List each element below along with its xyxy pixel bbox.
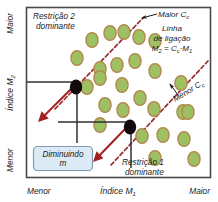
y-axis-low-label: Menor xyxy=(5,147,15,172)
bubble xyxy=(116,78,128,93)
svg-text:Maior Cc: Maior Cc xyxy=(158,10,189,20)
y-axis-title-sub: 2 xyxy=(10,74,16,79)
linha-equation: M2 = Cc·M1 xyxy=(152,44,193,54)
y-axis-title: Índice M2 xyxy=(5,74,16,110)
eq-m1-sub: 1 xyxy=(189,48,192,54)
bubble xyxy=(129,54,141,69)
bubble xyxy=(157,128,169,143)
bubble xyxy=(71,51,83,66)
svg-text:Índice M1: Índice M1 xyxy=(100,186,136,197)
bubble xyxy=(99,98,111,113)
x-axis-high-label: Maior xyxy=(189,186,211,196)
maior-cc-text: Maior C xyxy=(158,10,186,19)
x-axis-low-label: Menor xyxy=(27,186,52,196)
bubble xyxy=(94,71,106,86)
linha-line2: de ligação xyxy=(154,34,191,43)
bubble xyxy=(182,105,194,120)
figure-root: Restrição 2 dominante Restrição 1 domina… xyxy=(0,0,218,202)
bubble xyxy=(133,30,145,45)
y-axis-title-text: Índice M xyxy=(5,78,15,111)
svg-text:Índice M2: Índice M2 xyxy=(5,74,16,110)
x-axis-title-sub: 1 xyxy=(133,191,136,197)
bubble xyxy=(94,118,106,133)
bubble xyxy=(188,152,200,167)
x-axis-title: Índice M1 xyxy=(100,186,136,197)
selected-point-lower[interactable] xyxy=(124,119,136,134)
bubble xyxy=(86,33,98,48)
bubble xyxy=(178,132,190,147)
restricao2-line1: Restrição 2 xyxy=(33,11,75,21)
linha-line1: Linha xyxy=(162,24,182,33)
bubble xyxy=(149,64,161,79)
label-maior-cc: Maior Cc xyxy=(158,10,189,20)
bubble xyxy=(148,102,160,117)
bubble xyxy=(136,129,148,144)
bubble xyxy=(118,25,130,40)
callout-line1: Diminuindo xyxy=(43,150,84,159)
bubble xyxy=(117,103,129,118)
restricao1-line2: dominante xyxy=(125,167,164,177)
restricao1-line1: Restrição 1 xyxy=(122,157,164,167)
bubble xyxy=(81,80,93,95)
selection-chart: Restrição 2 dominante Restrição 1 domina… xyxy=(0,0,218,202)
eq-mid: = C xyxy=(162,44,177,53)
restricao2-line2: dominante xyxy=(36,21,75,31)
maior-cc-sub: c xyxy=(186,14,189,20)
callout-diminuindo-m[interactable]: Diminuindo m xyxy=(34,147,93,171)
callout-line2: m xyxy=(60,159,67,168)
x-axis-title-text: Índice M xyxy=(100,186,133,196)
eq-tail: ·M xyxy=(180,44,190,53)
bubble xyxy=(134,91,146,106)
bubble xyxy=(104,26,116,41)
selected-point-upper[interactable] xyxy=(70,79,82,94)
y-axis-high-label: Maior xyxy=(5,12,15,34)
bubble xyxy=(111,58,123,73)
